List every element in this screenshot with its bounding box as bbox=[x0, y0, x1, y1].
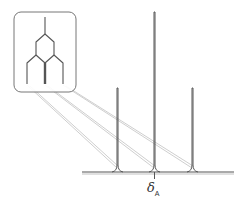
splitting-diagram bbox=[0, 0, 246, 204]
peak-left bbox=[112, 88, 123, 172]
peak-right bbox=[187, 88, 198, 172]
delta-symbol: δ bbox=[147, 180, 155, 195]
connector-lines bbox=[27, 85, 193, 168]
chemical-shift-label: δA bbox=[147, 180, 160, 197]
shift-subscript: A bbox=[155, 190, 160, 197]
peak-center bbox=[149, 12, 160, 172]
